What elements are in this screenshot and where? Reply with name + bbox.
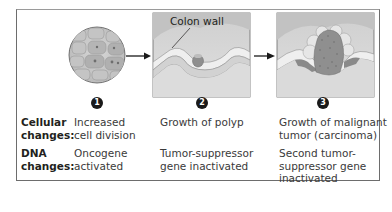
step-1-badge: 1 <box>91 97 103 109</box>
step-2-badge: 2 <box>196 97 208 109</box>
arrow-right-icon <box>126 53 151 60</box>
carcinoma-panel-icon <box>277 13 374 97</box>
step-2-dna-text: Tumor-suppressor gene inactivated <box>160 147 253 172</box>
step-1-dna-text: Oncogene activated <box>74 147 127 172</box>
arrow-right-icon <box>254 53 275 60</box>
step-3-badge: 3 <box>317 97 329 109</box>
step-1-cellular-text: Increased cell division <box>74 116 136 141</box>
dna-changes-label: DNA changes: <box>21 147 74 172</box>
step-2-cellular-text: Growth of polyp <box>160 116 244 129</box>
cells-magnified-icon <box>69 27 125 83</box>
step-3-cellular-text: Growth of malignant tumor (carcinoma) <box>279 116 387 141</box>
step-3-dna-text: Second tumor- suppressor gene inactivate… <box>279 147 366 185</box>
cellular-changes-label: Cellular changes: <box>21 116 74 141</box>
colon-wall-label: Colon wall <box>170 15 224 27</box>
